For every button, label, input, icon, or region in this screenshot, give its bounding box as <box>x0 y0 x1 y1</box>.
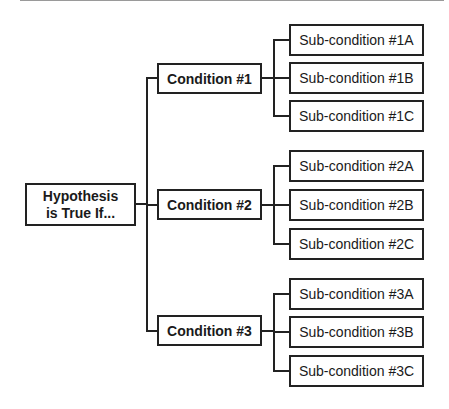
sub-condition-2b-box: Sub-condition #2B <box>289 189 424 221</box>
sub3a-branch <box>273 293 289 295</box>
branch-cond3 <box>146 330 157 332</box>
sub3b-branch <box>273 331 289 333</box>
sub2c-branch <box>273 243 289 245</box>
sub-condition-3b-box: Sub-condition #3B <box>289 316 424 348</box>
sub-condition-2c-box: Sub-condition #2C <box>289 228 424 260</box>
hypothesis-box: Hypothesis is True If... <box>25 183 136 226</box>
sub-condition-1a-box: Sub-condition #1A <box>289 24 424 56</box>
sub1b-branch <box>273 77 289 79</box>
condition-2-box: Condition #2 <box>157 189 262 220</box>
sub-condition-2a-box: Sub-condition #2A <box>289 150 424 182</box>
hypothesis-line1: Hypothesis <box>43 188 118 205</box>
branch-cond2 <box>146 204 157 206</box>
sub1c-branch <box>273 115 289 117</box>
top-divider <box>20 0 444 1</box>
sub-condition-3a-box: Sub-condition #3A <box>289 278 424 310</box>
condition-1-box: Condition #1 <box>157 63 262 94</box>
sub-condition-1b-box: Sub-condition #1B <box>289 62 424 94</box>
sub2a-branch <box>273 165 289 167</box>
condition-3-box: Condition #3 <box>157 315 262 346</box>
sub3c-branch <box>273 370 289 372</box>
sub-condition-1c-box: Sub-condition #1C <box>289 100 424 132</box>
sub-condition-3c-box: Sub-condition #3C <box>289 355 424 387</box>
sub1a-branch <box>273 39 289 41</box>
branch-cond1 <box>146 77 157 79</box>
sub2b-branch <box>273 204 289 206</box>
hypothesis-line2: is True If... <box>43 205 118 222</box>
